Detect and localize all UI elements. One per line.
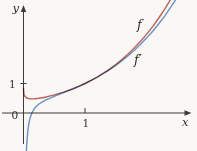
curves: [24, 0, 184, 151]
y-tick-label-1: 1: [9, 79, 16, 90]
plot-canvas: [0, 0, 197, 151]
origin-label: 0: [12, 110, 19, 121]
x-tick-label-1: 1: [83, 118, 90, 129]
curve-label-f-prime: f′: [134, 53, 142, 66]
f-prime-curve: [25, 0, 183, 151]
function-derivative-figure: y x 0 1 1 f f′: [0, 0, 197, 151]
axes: [2, 5, 192, 144]
curve-label-f: f: [137, 18, 142, 31]
y-axis-label: y: [13, 3, 20, 15]
x-axis-label: x: [182, 117, 189, 129]
y-axis-arrow-icon: [21, 5, 26, 12]
f-curve: [24, 0, 184, 99]
